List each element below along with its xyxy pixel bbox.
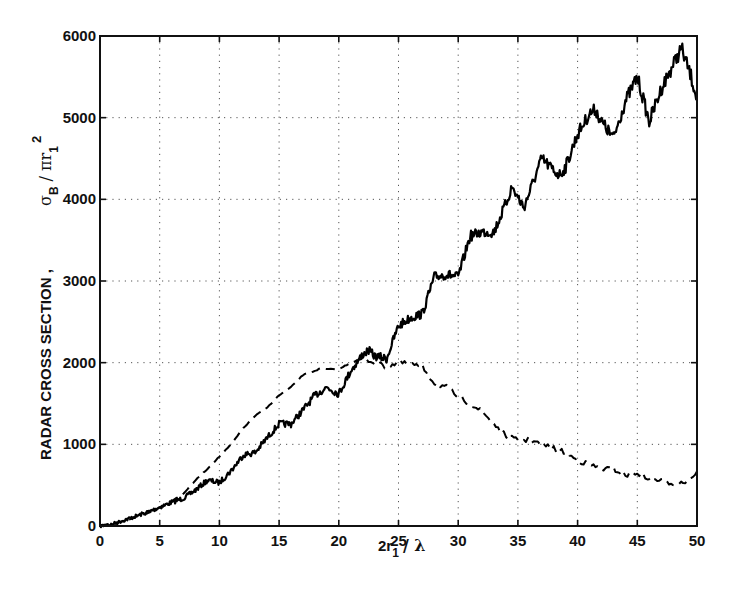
x-title-rest: / λ [403, 536, 426, 555]
x-tick-label: 50 [689, 532, 706, 549]
plot-series [100, 44, 697, 528]
y-axis-tick-labels: 0100020003000400050006000 [63, 27, 96, 534]
y-tick-label: 6000 [63, 27, 96, 44]
x-title-sub: 1 [392, 546, 399, 560]
svg-text:RADAR CROSS SECTION ,: RADAR CROSS SECTION , [37, 269, 54, 460]
y-title-rest: / πr [36, 152, 55, 181]
y-tick-label: 0 [88, 517, 96, 534]
solid-series-line [100, 44, 697, 528]
dashed-series-line [100, 358, 697, 527]
x-tick-label: 10 [211, 532, 228, 549]
x-tick-label: 30 [450, 532, 467, 549]
y-axis-title-symbol: σB/ πr12 [29, 136, 61, 206]
y-title-sigma: σ [36, 195, 55, 206]
y-tick-label: 2000 [63, 354, 96, 371]
x-tick-label: 0 [96, 532, 104, 549]
x-tick-label: 40 [569, 532, 586, 549]
grid-lines [100, 36, 697, 526]
x-axis-tick-labels: 05101520253035404550 [96, 532, 706, 549]
y-tick-label: 4000 [63, 190, 96, 207]
y-tick-label: 3000 [63, 272, 96, 289]
x-tick-label: 35 [510, 532, 527, 549]
x-tick-label: 5 [156, 532, 164, 549]
y-tick-label: 5000 [63, 109, 96, 126]
y-tick-label: 1000 [63, 435, 96, 452]
chart: 05101520253035404550 0100020003000400050… [0, 0, 744, 593]
x-title-main: 2r [378, 537, 392, 554]
x-tick-label: 15 [271, 532, 288, 549]
y-title-sigma-sub: B [47, 186, 61, 195]
y-title-sup: 2 [29, 136, 44, 143]
y-title-text: RADAR CROSS SECTION , [37, 269, 54, 460]
y-axis-title: RADAR CROSS SECTION , [37, 269, 54, 460]
y-title-r-sub: 1 [47, 146, 61, 153]
svg-text:σB/ πr12: σB/ πr12 [29, 136, 61, 206]
x-tick-label: 45 [629, 532, 646, 549]
x-tick-label: 20 [330, 532, 347, 549]
